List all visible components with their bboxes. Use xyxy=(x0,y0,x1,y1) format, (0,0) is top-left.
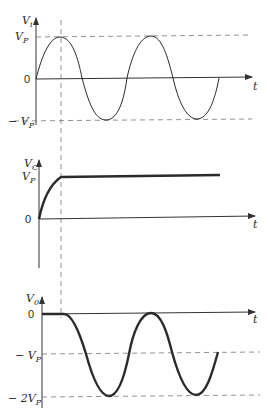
vo-neg-vp-dashed xyxy=(42,352,260,354)
vi-tick-zero: 0 xyxy=(24,73,30,85)
vo-tick-neg-2vp: − 2VP xyxy=(8,392,42,407)
vo-neg-2vp-dashed xyxy=(42,395,260,397)
vc-charge-curve xyxy=(39,175,220,219)
vo-t-label: t xyxy=(253,313,258,326)
vo-tick-neg-vp: − VP xyxy=(15,349,42,364)
vi-tick-vp: VP xyxy=(15,30,29,45)
vi-t-axis xyxy=(36,77,252,79)
vc-tick-zero: 0 xyxy=(25,213,31,225)
vi-neg-vp-dashed xyxy=(14,119,252,121)
input-voltage-plot: Vi VP 0 − VP t xyxy=(8,14,258,130)
output-voltage-plot: V0 0 − VP − 2VP t xyxy=(8,292,260,408)
clamper-waveform-diagram: Vi VP 0 − VP t VC VP 0 t V0 0 − VP − 2VP… xyxy=(0,0,270,419)
vi-axis-label: Vi xyxy=(22,14,33,29)
vc-t-axis xyxy=(39,216,255,219)
vo-axis-label: V0 xyxy=(26,292,39,307)
vo-tick-zero: 0 xyxy=(28,308,34,320)
vc-t-label: t xyxy=(253,218,258,231)
vo-output-curve xyxy=(42,313,218,396)
vi-tick-neg-vp: − VP xyxy=(8,115,35,130)
vi-t-label: t xyxy=(253,80,258,93)
capacitor-voltage-plot: VC VP 0 t xyxy=(22,157,258,268)
vi-vp-dashed xyxy=(36,35,252,37)
vc-tick-vp: VP xyxy=(22,170,36,185)
